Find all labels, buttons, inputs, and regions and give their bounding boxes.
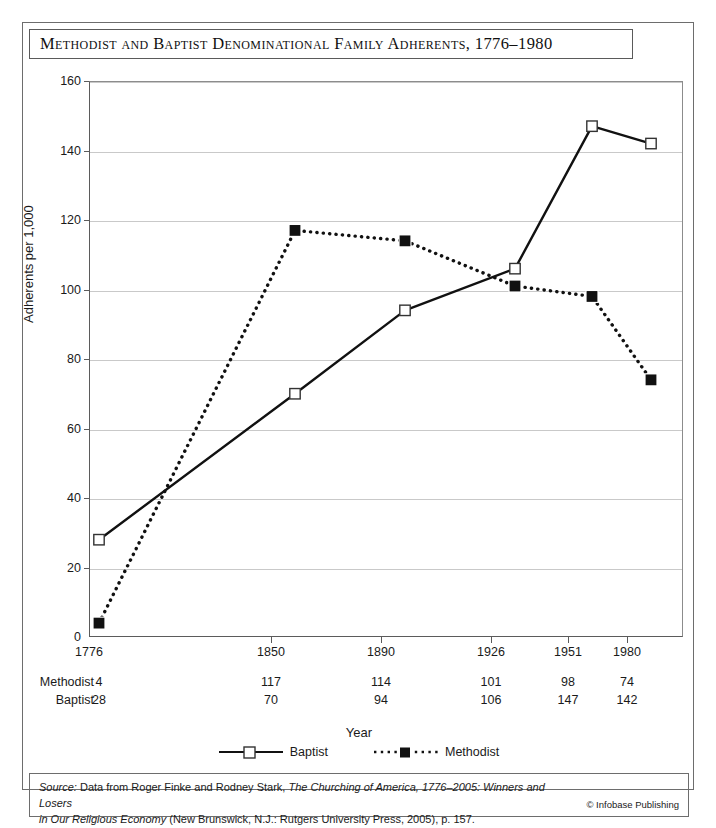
source-note: Source: Data from Roger Finke and Rodney… [39, 780, 559, 828]
chart-legend: Baptist Methodist [23, 745, 695, 759]
x-axis-label-1980: 1980 [613, 645, 641, 659]
y-axis-label-0: 0 [41, 630, 81, 644]
table-cell-baptist-1926: 106 [481, 693, 502, 707]
source-line2b: (New Brunswick, N.J.: Rutgers University… [166, 813, 475, 825]
table-cell-methodist-1980: 74 [620, 675, 634, 689]
y-tickmark-140 [84, 151, 89, 152]
gridline-100 [90, 291, 682, 292]
table-row-label-baptist: Baptist [0, 693, 94, 707]
x-axis-label-1926: 1926 [477, 645, 505, 659]
plot-container: Adherents per 1,000 160 140 120 100 80 6… [23, 23, 695, 791]
open-square-marker-icon [219, 745, 283, 759]
x-axis-label-1850: 1850 [257, 645, 285, 659]
y-tickmark-160 [84, 81, 89, 82]
y-tickmark-60 [84, 429, 89, 430]
y-tickmark-120 [84, 220, 89, 221]
y-tickmark-100 [84, 290, 89, 291]
legend-item-baptist[interactable]: Baptist [219, 745, 328, 759]
y-axis-label-40: 40 [41, 491, 81, 505]
gridline-80 [90, 360, 682, 361]
table-cell-baptist-1890: 94 [374, 693, 388, 707]
table-cell-methodist-1776: 4 [96, 675, 103, 689]
gridline-140 [90, 152, 682, 153]
y-axis-label-120: 120 [41, 213, 81, 227]
gridline-20 [90, 569, 682, 570]
table-row-label-methodist: Methodist [0, 675, 94, 689]
table-cell-methodist-1850: 117 [261, 675, 281, 689]
gridline-60 [90, 430, 682, 431]
x-tickmark-1850 [271, 637, 272, 643]
x-tickmark-1926 [491, 637, 492, 643]
x-axis-label-1951: 1951 [554, 645, 582, 659]
y-tickmark-80 [84, 359, 89, 360]
copyright-notice: © Infobase Publishing [586, 799, 679, 810]
y-axis-label-60: 60 [41, 422, 81, 436]
gridline-160 [90, 82, 682, 83]
x-tickmark-1951 [568, 637, 569, 643]
source-line2a: in Our Religious Economy [39, 813, 166, 825]
y-axis-label-140: 140 [41, 144, 81, 158]
x-tickmark-1890 [381, 637, 382, 643]
y-tickmark-20 [84, 568, 89, 569]
filled-square-marker-icon [374, 745, 438, 759]
legend-label-baptist: Baptist [290, 745, 328, 759]
legend-item-methodist[interactable]: Methodist [374, 745, 499, 759]
figure-frame: Methodist and Baptist Denominational Fam… [22, 22, 694, 790]
y-axis-label-20: 20 [41, 561, 81, 575]
table-cell-methodist-1951: 98 [561, 675, 575, 689]
y-axis-label-160: 160 [41, 74, 81, 88]
table-cell-baptist-1776: 28 [92, 693, 106, 707]
gridline-120 [90, 221, 682, 222]
x-axis-title: Year [23, 725, 695, 740]
table-cell-baptist-1951: 147 [558, 693, 579, 707]
plot-area [89, 81, 683, 637]
table-cell-baptist-1980: 142 [617, 693, 638, 707]
y-axis-title: Adherents per 1,000 [21, 205, 36, 323]
y-axis-label-80: 80 [41, 352, 81, 366]
gridline-40 [90, 499, 682, 500]
table-cell-baptist-1850: 70 [264, 693, 278, 707]
x-axis-label-1776: 1776 [75, 645, 103, 659]
x-axis-label-1890: 1890 [367, 645, 395, 659]
source-note-box: Source: Data from Roger Finke and Rodney… [29, 773, 689, 817]
y-tickmark-40 [84, 498, 89, 499]
legend-label-methodist: Methodist [445, 745, 499, 759]
table-cell-methodist-1890: 114 [371, 675, 391, 689]
y-axis-label-100: 100 [41, 283, 81, 297]
x-tickmark-1980 [627, 637, 628, 643]
table-cell-methodist-1926: 101 [481, 675, 502, 689]
source-prefix: Source: [39, 781, 77, 793]
source-line1a: Data from Roger Finke and Rodney Stark, [77, 781, 289, 793]
